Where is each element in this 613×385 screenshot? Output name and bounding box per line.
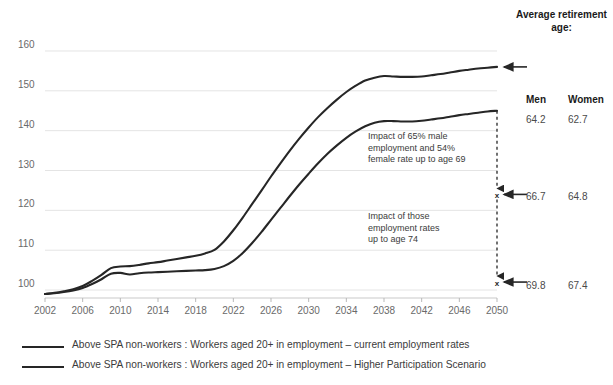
value-women-row-1: 62.7 [568, 114, 587, 125]
chart-root: xx 100110120130140150160 200220062010201… [0, 0, 613, 385]
callout-connectors: xx [495, 67, 527, 288]
side-table-title: Average retirement age: [512, 8, 611, 34]
x-tick-label: 2046 [443, 305, 475, 316]
marker-x-69-8: x [495, 279, 500, 288]
value-women-row-2: 64.8 [568, 191, 587, 202]
x-tick-label: 2006 [67, 305, 99, 316]
value-men-row-1: 64.2 [526, 114, 545, 125]
series-lines [45, 67, 497, 294]
value-men-row-3: 69.8 [526, 280, 545, 291]
column-header-men: Men [526, 94, 546, 105]
x-axis-ticks [45, 298, 497, 302]
x-tick-label: 2010 [104, 305, 136, 316]
x-tick-label: 2002 [29, 305, 61, 316]
x-tick-label: 2026 [255, 305, 287, 316]
value-women-row-3: 67.4 [568, 280, 587, 291]
x-tick-label: 2022 [217, 305, 249, 316]
legend-label-current-rates: Above SPA non-workers : Workers aged 20+… [72, 339, 469, 350]
legend-item-higher-participation: Above SPA non-workers : Workers aged 20+… [0, 357, 613, 377]
x-tick-label: 2018 [180, 305, 212, 316]
x-tick-label: 2030 [293, 305, 325, 316]
x-tick-label: 2050 [481, 305, 513, 316]
x-tick-label: 2038 [368, 305, 400, 316]
y-tick-label: 130 [18, 159, 35, 170]
x-tick-label: 2014 [142, 305, 174, 316]
gridlines [45, 51, 497, 298]
average-retirement-age-table: Average retirement age: Men Women 64.2 6… [512, 8, 613, 34]
y-tick-label: 160 [18, 39, 35, 50]
x-tick-label: 2034 [330, 305, 362, 316]
series-line-current-rates [45, 67, 497, 294]
y-tick-label: 150 [18, 79, 35, 90]
x-tick-label: 2042 [406, 305, 438, 316]
annotation-age-69: Impact of 65% male employment and 54% fe… [368, 131, 488, 166]
value-men-row-2: 66.7 [526, 191, 545, 202]
legend-item-current-rates: Above SPA non-workers : Workers aged 20+… [0, 337, 613, 357]
chart-legend: Above SPA non-workers : Workers aged 20+… [0, 337, 613, 377]
line-chart: xx [0, 0, 613, 385]
legend-label-higher-participation: Above SPA non-workers : Workers aged 20+… [72, 359, 486, 370]
annotation-age-74: Impact of those employment rates up to a… [368, 211, 488, 246]
y-tick-label: 100 [18, 278, 35, 289]
marker-x-66-7: x [495, 191, 500, 200]
y-tick-label: 140 [18, 119, 35, 130]
legend-swatch-current-rates [22, 346, 64, 348]
column-header-women: Women [568, 94, 604, 105]
y-tick-label: 120 [18, 198, 35, 209]
legend-swatch-higher-participation [22, 366, 64, 368]
y-tick-label: 110 [18, 238, 34, 249]
